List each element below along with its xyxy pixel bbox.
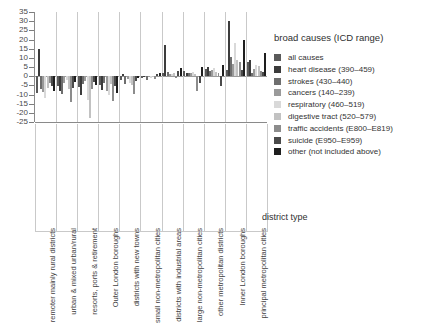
legend-rows: all causesheart disease (390–459)strokes… [272, 52, 436, 157]
legend-item[interactable]: strokes (430–440) [272, 76, 436, 87]
legend-swatch-icon [274, 113, 281, 120]
legend-item[interactable]: respiratory (460–519) [272, 99, 436, 110]
bar-group [162, 12, 183, 122]
bar [201, 67, 203, 76]
legend-item-label: all causes [288, 53, 324, 62]
legend-swatch-icon [274, 137, 281, 144]
y-axis-tick-label: 10 [19, 54, 28, 62]
x-axis-tick-cell [162, 124, 184, 232]
bar-group [140, 12, 161, 122]
bar-group [225, 12, 246, 122]
y-axis-tick-label: 25 [19, 26, 28, 34]
bar [175, 76, 177, 78]
x-axis-tick-cell [119, 124, 141, 232]
x-axis-tick-cell [140, 124, 162, 232]
y-axis-tick-label: -25 [16, 118, 28, 126]
bar-group [56, 12, 77, 122]
x-axis-label: resorts, ports & retirement [91, 228, 99, 315]
bar [220, 76, 222, 86]
legend-item-label: suicide (E950–E959) [288, 136, 362, 145]
y-axis-tick-label: -20 [16, 109, 28, 117]
x-axis-labels: remoter mainly rural districtsurban & mi… [35, 124, 267, 234]
legend-item[interactable]: suicide (E950–E959) [272, 134, 436, 145]
bar-group [119, 12, 140, 122]
x-axis-tick-cell [77, 124, 99, 232]
x-axis-label: other metropolitan districts [217, 228, 225, 316]
bar [38, 49, 40, 77]
bar [222, 65, 224, 76]
y-axis-tick-mark [29, 122, 34, 123]
bar [154, 76, 156, 79]
y-axis-tick-label: -5 [21, 81, 28, 89]
y-axis-tick-label: 0 [24, 72, 28, 80]
x-axis-tick-cell [225, 124, 247, 232]
legend-item[interactable]: all causes [272, 52, 436, 63]
legend-item-label: traffic accidents (E800–E819) [288, 124, 393, 133]
bar [159, 73, 161, 77]
bar [180, 68, 182, 76]
y-axis-tick-label: 35 [19, 8, 28, 16]
x-axis-label: large non-metropolitan cities [196, 228, 204, 322]
y-axis-tick-label: -15 [16, 100, 28, 108]
y-axis-tick-label: 30 [19, 17, 28, 25]
x-axis-label: urban & mixed urban/rural [70, 228, 78, 315]
legend-title: broad causes (ICD range) [274, 32, 436, 43]
bar-group [246, 12, 267, 122]
bar-group [98, 12, 119, 122]
legend-item-label: respiratory (460–519) [288, 100, 364, 109]
y-axis-tick-label: 5 [24, 63, 28, 71]
y-axis-tick-label: 15 [19, 45, 28, 53]
x-axis-tick-cell [183, 124, 205, 232]
legend-swatch-icon [274, 148, 281, 155]
x-axis-tick-cell [56, 124, 78, 232]
y-axis-tick-label: 20 [19, 36, 28, 44]
y-axis-ticks: 35302520151050-5-10-15-20-25 [0, 0, 34, 130]
legend: broad causes (ICD range) all causesheart… [272, 32, 436, 158]
x-axis-label: principal metropolitan cities [260, 228, 268, 318]
legend-swatch-icon [274, 101, 281, 108]
legend-swatch-icon [274, 66, 281, 73]
legend-item-label: digestive tract (520–579) [288, 112, 376, 121]
legend-item-label: other (not included above) [288, 147, 381, 156]
legend-item[interactable]: cancers (140–239) [272, 87, 436, 98]
bar-group [183, 12, 204, 122]
legend-swatch-icon [274, 125, 281, 132]
bar [36, 76, 38, 93]
legend-item[interactable]: heart disease (390–459) [272, 64, 436, 75]
x-axis-label: remoter mainly rural districts [49, 228, 57, 322]
bar-group [35, 12, 56, 122]
x-axis-tick-cell [35, 124, 57, 232]
bar [137, 76, 139, 78]
legend-item-label: heart disease (390–459) [288, 65, 375, 74]
x-axis-label: districts with new towns [133, 228, 141, 306]
bar [95, 76, 97, 85]
legend-swatch-icon [274, 54, 281, 61]
bar-group [77, 12, 98, 122]
x-axis-label: small non-metropolitan cities [154, 228, 162, 323]
x-axis-label: Outer London boroughs [112, 228, 120, 307]
x-axis-label: Inner London boroughs [239, 228, 247, 306]
legend-item[interactable]: other (not included above) [272, 146, 436, 157]
bar [264, 53, 266, 76]
x-axis-tick-cell [98, 124, 120, 232]
legend-swatch-icon [274, 78, 281, 85]
x-axis-line [35, 122, 267, 123]
y-axis-tick-label: -10 [16, 91, 28, 99]
bar [116, 76, 118, 93]
bar [243, 40, 245, 77]
bar [74, 76, 76, 82]
legend-swatch-icon [274, 89, 281, 96]
plot-area [35, 12, 267, 122]
bar [53, 76, 55, 91]
legend-item-label: strokes (430–440) [288, 77, 352, 86]
x-axis-tick-cell [204, 124, 226, 232]
bar [199, 76, 201, 83]
bar [120, 76, 122, 80]
legend-item-label: cancers (140–239) [288, 88, 355, 97]
x-axis-title: district type [262, 212, 308, 222]
legend-item[interactable]: digestive tract (520–579) [272, 111, 436, 122]
x-axis-label: districts with industrial areas [175, 228, 183, 322]
plot-wrapper: 35302520151050-5-10-15-20-25 remoter mai… [0, 0, 270, 250]
legend-item[interactable]: traffic accidents (E800–E819) [272, 123, 436, 134]
